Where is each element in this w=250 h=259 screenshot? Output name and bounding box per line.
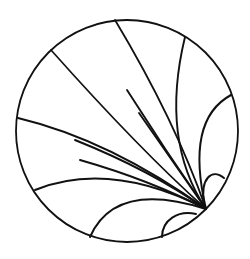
geodesic-curve	[51, 50, 206, 209]
geodesic-group	[18, 20, 231, 237]
small-geodesic-arc	[162, 213, 196, 237]
diagram-canvas	[0, 0, 250, 259]
geodesic-curve	[90, 199, 206, 237]
poincare-disk-diagram	[0, 0, 250, 259]
